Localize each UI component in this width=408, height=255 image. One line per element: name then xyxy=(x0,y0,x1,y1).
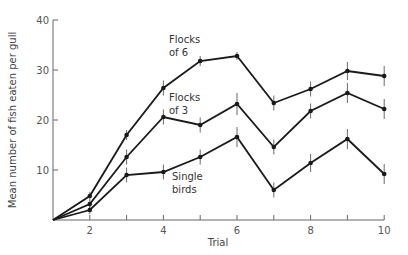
y-tick-label: 20 xyxy=(36,115,49,126)
x-tick-label: 4 xyxy=(160,225,166,236)
data-point xyxy=(88,208,93,213)
data-point xyxy=(198,59,203,64)
data-point xyxy=(161,115,166,120)
data-point xyxy=(308,87,313,92)
series-group xyxy=(53,52,387,220)
data-point xyxy=(272,188,277,193)
y-tick-label: 10 xyxy=(36,165,49,176)
data-point xyxy=(198,123,203,128)
series-label: Flocks xyxy=(169,34,200,45)
data-point xyxy=(198,155,203,160)
series-labels: Flocksof 6Flocksof 3Singlebirds xyxy=(169,34,203,195)
series-label: Single xyxy=(172,171,203,182)
series-line xyxy=(53,56,384,220)
series-flocks-of-6 xyxy=(53,52,387,220)
data-point xyxy=(235,135,240,140)
x-tick-label: 8 xyxy=(307,225,313,236)
data-point xyxy=(88,194,93,199)
data-point xyxy=(88,202,93,207)
data-point xyxy=(124,173,129,178)
series-label: Flocks xyxy=(169,92,200,103)
data-point xyxy=(124,155,129,160)
data-point xyxy=(382,107,387,112)
x-axis-label: Trial xyxy=(207,237,228,248)
data-point xyxy=(308,109,313,114)
series-label: of 6 xyxy=(169,47,188,58)
series-line xyxy=(53,137,384,220)
data-point xyxy=(124,133,129,138)
x-tick-label: 10 xyxy=(378,225,391,236)
data-point xyxy=(161,86,166,91)
data-point xyxy=(308,161,313,166)
line-chart: 10203040246810 Mean number of fish eaten… xyxy=(0,0,408,255)
data-point xyxy=(235,54,240,59)
series-label: birds xyxy=(172,184,197,195)
data-point xyxy=(382,74,387,79)
x-tick-label: 2 xyxy=(87,225,93,236)
data-point xyxy=(345,91,350,96)
data-point xyxy=(161,170,166,175)
y-axis-label: Mean number of fish eaten per gull xyxy=(7,32,18,208)
y-tick-label: 40 xyxy=(36,15,49,26)
data-point xyxy=(382,172,387,177)
series-line xyxy=(53,93,384,220)
series-flocks-of-3 xyxy=(53,83,387,220)
series-label: of 3 xyxy=(169,105,188,116)
data-point xyxy=(272,101,277,106)
data-point xyxy=(272,145,277,150)
data-point xyxy=(345,137,350,142)
data-point xyxy=(235,102,240,107)
y-axis-title: Mean number of fish eaten per gull xyxy=(7,32,18,208)
y-tick-label: 30 xyxy=(36,65,49,76)
x-tick-label: 6 xyxy=(234,225,240,236)
data-point xyxy=(345,69,350,74)
